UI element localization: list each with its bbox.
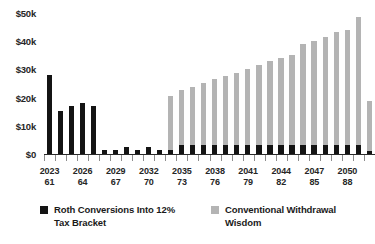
x-axis-age-label: 82 (264, 177, 298, 188)
bar-chart: $0$10k$20k$30k$40k$50k 20236120266420296… (0, 0, 375, 244)
x-axis-year-label: 2026 (73, 166, 93, 176)
x-axis-year-label: 2035 (172, 166, 192, 176)
y-axis-tick-label: $50k (16, 8, 36, 19)
x-axis-tick (176, 155, 177, 161)
bar-conventional-withdrawal-wisdom (289, 55, 294, 155)
x-axis-year-label: 2032 (139, 166, 159, 176)
bar-roth-conversions (58, 111, 63, 155)
y-axis-tick-label: $30k (16, 64, 36, 75)
x-axis-tick (276, 155, 277, 161)
x-axis-tick-label: 204482 (264, 166, 298, 188)
x-axis-tick (254, 155, 255, 161)
x-axis-year-label: 2023 (40, 166, 60, 176)
bar-conventional-withdrawal-wisdom (323, 37, 328, 155)
bar-roth-conversions (80, 103, 85, 155)
y-axis-tick-label: $20k (16, 92, 36, 103)
gray-square-icon (211, 206, 219, 214)
x-axis-year-label: 2047 (305, 166, 325, 176)
x-axis-tick (265, 155, 266, 161)
bar-conventional-withdrawal-wisdom (345, 30, 350, 155)
x-axis-tick-label: 204179 (231, 166, 265, 188)
bar-roth-conversions (69, 106, 74, 155)
x-axis-tick (353, 155, 354, 161)
x-axis-tick (121, 155, 122, 161)
x-axis-tick-label: 203573 (165, 166, 199, 188)
x-axis-tick (88, 155, 89, 161)
x-axis-year-label: 2041 (238, 166, 258, 176)
y-axis-tick-label: $10k (16, 120, 36, 131)
x-axis-year-label: 2029 (106, 166, 126, 176)
x-axis-tick (331, 155, 332, 161)
x-axis-tick (44, 155, 45, 161)
x-axis-age-label: 85 (297, 177, 331, 188)
x-axis-age-label: 76 (198, 177, 232, 188)
x-axis-year-label: 2044 (271, 166, 291, 176)
x-axis-age-label: 88 (330, 177, 364, 188)
x-axis-tick (287, 155, 288, 161)
x-axis-tick (364, 155, 365, 161)
x-axis-tick-label: 202967 (99, 166, 133, 188)
x-axis-tick-label: 205088 (330, 166, 364, 188)
bar-conventional-withdrawal-wisdom (245, 69, 250, 155)
x-axis-tick (132, 155, 133, 161)
x-axis-tick (320, 155, 321, 161)
bar-conventional-withdrawal-wisdom (278, 58, 283, 155)
bar-roth-conversions (47, 75, 52, 155)
x-axis-tick (243, 155, 244, 161)
x-axis-tick (232, 155, 233, 161)
legend-item: Conventional Withdrawal Wisdom (211, 204, 360, 229)
x-axis-age-label: 73 (165, 177, 199, 188)
x-axis-tick (298, 155, 299, 161)
x-axis-tick-label: 203270 (132, 166, 166, 188)
x-axis-age-label: 64 (66, 177, 100, 188)
bar-conventional-withdrawal-wisdom (356, 17, 361, 155)
x-axis-year-label: 2038 (205, 166, 225, 176)
x-axis-age-label: 70 (132, 177, 166, 188)
x-axis-tick-label: 203876 (198, 166, 232, 188)
x-axis-tick (77, 155, 78, 161)
y-axis-tick-label: $0 (26, 149, 36, 160)
x-axis-age-label: 67 (99, 177, 133, 188)
legend-label: Roth Conversions Into 12% Tax Bracket (54, 204, 189, 229)
x-axis-tick (66, 155, 67, 161)
x-axis-tick (55, 155, 56, 161)
bar-conventional-withdrawal-wisdom (256, 65, 261, 155)
bar-conventional-withdrawal-wisdom (300, 44, 305, 155)
bar-roth-conversions (91, 106, 96, 155)
bar-conventional-withdrawal-wisdom (223, 76, 228, 155)
x-axis-age-label: 79 (231, 177, 265, 188)
x-axis-age-label: 61 (33, 177, 67, 188)
x-axis-tick (342, 155, 343, 161)
x-axis-tick (210, 155, 211, 161)
x-axis-tick (143, 155, 144, 161)
legend-item: Roth Conversions Into 12% Tax Bracket (40, 204, 189, 229)
bar-conventional-withdrawal-wisdom (267, 61, 272, 155)
y-axis-tick-label: $40k (16, 36, 36, 47)
x-axis-tick-label: 204785 (297, 166, 331, 188)
bar-conventional-withdrawal-wisdom (367, 101, 372, 155)
black-square-icon (40, 206, 48, 214)
x-axis-tick (187, 155, 188, 161)
x-axis-tick (309, 155, 310, 161)
x-axis-tick (165, 155, 166, 161)
y-axis: $0$10k$20k$30k$40k$50k (0, 0, 40, 170)
x-axis-tick (110, 155, 111, 161)
x-axis-year-label: 2050 (338, 166, 358, 176)
bar-conventional-withdrawal-wisdom (168, 96, 173, 155)
x-axis-tick (198, 155, 199, 161)
legend-label: Conventional Withdrawal Wisdom (225, 204, 360, 229)
x-axis-tick-label: 202664 (66, 166, 100, 188)
x-axis-tick-label: 202361 (33, 166, 67, 188)
chart-legend: Roth Conversions Into 12% Tax BracketCon… (40, 204, 370, 229)
bar-conventional-withdrawal-wisdom (334, 32, 339, 155)
x-axis-tick (221, 155, 222, 161)
x-axis-tick (99, 155, 100, 161)
plot-area (44, 14, 375, 155)
x-axis-tick (154, 155, 155, 161)
bar-conventional-withdrawal-wisdom (212, 79, 217, 155)
bar-conventional-withdrawal-wisdom (234, 73, 239, 155)
bar-conventional-withdrawal-wisdom (311, 41, 316, 155)
